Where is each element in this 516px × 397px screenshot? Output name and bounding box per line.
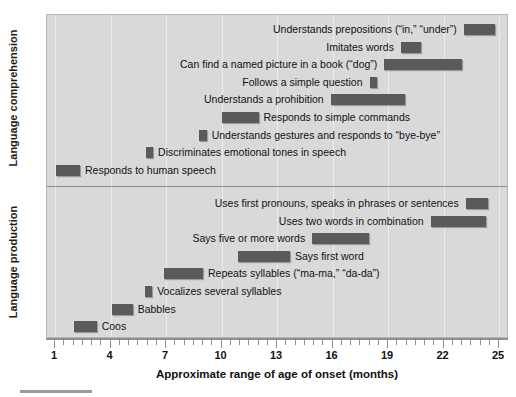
chart-row: Babbles — [47, 301, 507, 318]
x-axis-tick-minor — [174, 340, 175, 345]
chart-row: Says first word — [47, 248, 507, 265]
x-axis-tick-minor — [350, 340, 351, 345]
range-bar — [56, 165, 80, 176]
x-axis-tick-minor — [341, 340, 342, 345]
x-axis-tick-major — [110, 340, 111, 348]
x-axis-tick-label: 7 — [162, 349, 168, 361]
x-axis-tick-minor — [147, 340, 148, 345]
range-bar — [74, 321, 97, 332]
x-axis-tick-major — [443, 340, 444, 348]
chart-plot-area: Understands prepositions (“in,” “under”)… — [46, 14, 508, 338]
x-axis-tick-minor — [285, 340, 286, 345]
x-axis — [46, 338, 508, 347]
range-bar — [431, 216, 487, 227]
x-axis-tick-label: 1 — [51, 349, 57, 361]
y-axis-group-label-production-text: Language production — [7, 206, 19, 318]
x-axis-tick-label: 16 — [325, 349, 337, 361]
range-bar-label: Understands prepositions (“in,” “under”) — [273, 22, 457, 37]
y-axis-group-label-comprehension: Language comprehension — [0, 14, 26, 182]
chart-row: Responds to simple commands — [47, 109, 507, 126]
x-axis-tick-minor — [202, 340, 203, 345]
x-axis-tick-minor — [470, 340, 471, 345]
chart-row: Repeats syllables (“ma-ma,” “da-da”) — [47, 265, 507, 282]
x-axis-tick-major — [387, 340, 388, 348]
range-bar — [199, 130, 206, 141]
group-divider — [47, 186, 507, 187]
x-axis-tick-minor — [73, 340, 74, 345]
x-axis-tick-minor — [424, 340, 425, 345]
x-axis-tick-minor — [267, 340, 268, 345]
range-bar-label: Responds to simple commands — [264, 110, 410, 125]
x-axis-tick-minor — [137, 340, 138, 345]
x-axis-tick-label: 19 — [381, 349, 393, 361]
y-axis-group-label-comprehension-text: Language comprehension — [7, 30, 19, 167]
x-axis-tick-minor — [313, 340, 314, 345]
chart-row: Coos — [47, 318, 507, 335]
x-axis-tick-minor — [119, 340, 120, 345]
x-axis-tick-minor — [415, 340, 416, 345]
x-axis-tick-minor — [406, 340, 407, 345]
chart-row: Can find a named picture in a book (“dog… — [47, 56, 507, 73]
x-axis-tick-major — [221, 340, 222, 348]
x-axis-tick-minor — [489, 340, 490, 345]
x-axis-tick-major — [165, 340, 166, 348]
range-bar — [222, 112, 259, 123]
chart-row: Uses first pronouns, speaks in phrases o… — [47, 195, 507, 212]
chart-row: Discriminates emotional tones in speech — [47, 144, 507, 161]
chart-row: Vocalizes several syllables — [47, 283, 507, 300]
x-axis-tick-minor — [452, 340, 453, 345]
chart-row: Understands gestures and responds to “by… — [47, 127, 507, 144]
range-bar — [331, 94, 405, 105]
x-axis-tick-minor — [461, 340, 462, 345]
range-bar-label: Discriminates emotional tones in speech — [158, 145, 346, 160]
x-axis-tick-major — [54, 340, 55, 348]
chart-row: Follows a simple question — [47, 74, 507, 91]
range-bar — [466, 198, 488, 209]
x-axis-tick-minor — [193, 340, 194, 345]
x-axis-tick-minor — [230, 340, 231, 345]
range-bar-label: Follows a simple question — [242, 75, 362, 90]
range-bar — [145, 286, 152, 297]
range-bar-label: Can find a named picture in a book (“dog… — [180, 57, 377, 72]
x-axis-tick-minor — [156, 340, 157, 345]
x-axis-tick-minor — [295, 340, 296, 345]
range-bar-label: Imitates words — [326, 40, 394, 55]
x-axis-tick-minor — [322, 340, 323, 345]
x-axis-tick-minor — [433, 340, 434, 345]
range-bar-label: Vocalizes several syllables — [157, 284, 281, 299]
x-axis-tick-minor — [378, 340, 379, 345]
x-axis-title: Approximate range of age of onset (month… — [46, 368, 508, 380]
range-bar-label: Understands gestures and responds to “by… — [212, 128, 440, 143]
x-axis-tick-minor — [184, 340, 185, 345]
x-axis-tick-minor — [396, 340, 397, 345]
range-bar — [384, 59, 462, 70]
range-bar — [238, 251, 290, 262]
range-bar-label: Understands a prohibition — [204, 92, 324, 107]
x-axis-tick-minor — [248, 340, 249, 345]
x-axis-tick-label: 25 — [492, 349, 504, 361]
x-axis-tick-minor — [258, 340, 259, 345]
chart-row: Understands a prohibition — [47, 91, 507, 108]
range-bar — [164, 268, 203, 279]
x-axis-tick-major — [276, 340, 277, 348]
range-bar-label: Uses first pronouns, speaks in phrases o… — [215, 196, 459, 211]
x-axis-tick-label: 4 — [106, 349, 112, 361]
range-bar — [401, 42, 421, 53]
range-bar-label: Repeats syllables (“ma-ma,” “da-da”) — [208, 266, 380, 281]
chart-row: Understands prepositions (“in,” “under”) — [47, 21, 507, 38]
x-axis-tick-label: 10 — [214, 349, 226, 361]
range-bar — [146, 147, 153, 158]
x-axis-tick-major — [498, 340, 499, 348]
range-bar-label: Says first word — [295, 249, 364, 264]
x-axis-tick-minor — [304, 340, 305, 345]
x-axis-tick-minor — [211, 340, 212, 345]
range-bar — [464, 24, 495, 35]
x-axis-tick-label: 22 — [436, 349, 448, 361]
x-axis-tick-label: 13 — [270, 349, 282, 361]
figure-footer-rule — [20, 390, 92, 393]
x-axis-tick-minor — [63, 340, 64, 345]
range-bar — [312, 233, 369, 244]
figure-container: Language comprehension Language producti… — [0, 0, 516, 397]
x-axis-tick-minor — [91, 340, 92, 345]
chart-row: Imitates words — [47, 39, 507, 56]
